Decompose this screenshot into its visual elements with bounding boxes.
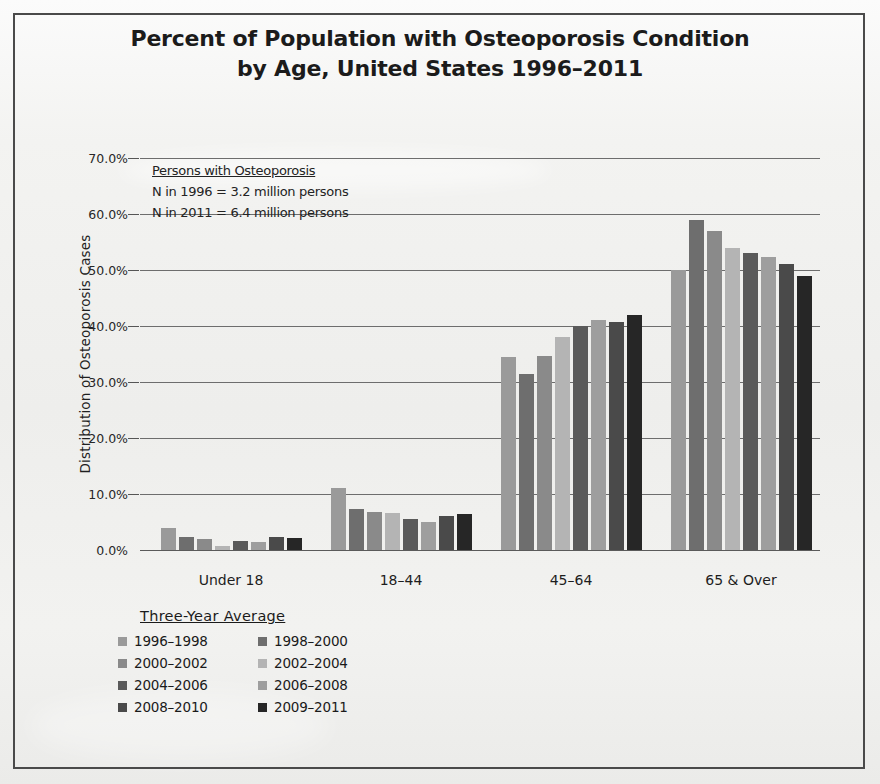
y-axis-tick-label: 60.0% (62, 207, 128, 222)
y-axis-tick-label: 20.0% (62, 431, 128, 446)
bar (233, 541, 248, 550)
bar-group (671, 158, 812, 550)
legend-item[interactable]: 2004–2006 (118, 677, 258, 693)
bar (161, 528, 176, 550)
bar (251, 542, 266, 550)
y-axis-tick-mark (128, 494, 139, 495)
bar (555, 337, 570, 550)
chart-page: Percent of Population with Osteoporosis … (0, 0, 880, 784)
legend-swatch (258, 681, 267, 690)
y-axis-tick-label: 40.0% (62, 319, 128, 334)
bar (349, 509, 364, 550)
legend-item[interactable]: 2009–2011 (258, 699, 408, 715)
legend-item[interactable]: 2008–2010 (118, 699, 258, 715)
axis-baseline (140, 550, 820, 551)
bar (671, 270, 686, 550)
bar (421, 522, 436, 550)
title-line-2: by Age, United States 1996–2011 (50, 54, 830, 84)
x-axis-category-label: 45–64 (491, 572, 651, 588)
legend-item[interactable]: 2000–2002 (118, 655, 258, 671)
bar (761, 257, 776, 550)
bar (707, 231, 722, 550)
legend-swatch (118, 703, 127, 712)
legend-swatch (118, 681, 127, 690)
bar (519, 374, 534, 550)
annotation-heading: Persons with Osteoporosis (152, 160, 348, 181)
annotation-line-2: N in 2011 = 6.4 million persons (152, 202, 348, 223)
bar (179, 537, 194, 550)
legend-label: 1996–1998 (134, 633, 208, 649)
bar (725, 248, 740, 550)
bar-group (331, 158, 472, 550)
bar (779, 264, 794, 550)
legend-label: 2006–2008 (274, 677, 348, 693)
x-axis-category-label: 18–44 (321, 572, 481, 588)
bar (215, 546, 230, 550)
legend-label: 2004–2006 (134, 677, 208, 693)
bar-group (501, 158, 642, 550)
annotation-box: Persons with Osteoporosis N in 1996 = 3.… (152, 160, 348, 223)
legend-item[interactable]: 2002–2004 (258, 655, 408, 671)
legend-label: 2000–2002 (134, 655, 208, 671)
legend-swatch (258, 659, 267, 668)
bar (457, 514, 472, 550)
y-axis-tick-label: 10.0% (62, 487, 128, 502)
page-title: Percent of Population with Osteoporosis … (50, 24, 830, 84)
bar (627, 315, 642, 550)
legend-label: 2002–2004 (274, 655, 348, 671)
legend-label: 1998–2000 (274, 633, 348, 649)
bar (385, 513, 400, 550)
y-axis-tick-mark (128, 158, 139, 159)
y-axis-tick-mark (128, 270, 139, 271)
bar (689, 220, 704, 550)
bar (367, 512, 382, 550)
bar (439, 516, 454, 550)
legend-title: Three-Year Average (140, 608, 418, 624)
legend-label: 2009–2011 (274, 699, 348, 715)
bar (797, 276, 812, 550)
legend-swatch (118, 637, 127, 646)
bar (269, 537, 284, 550)
bar (743, 253, 758, 550)
bar (609, 322, 624, 550)
title-line-1: Percent of Population with Osteoporosis … (130, 26, 749, 51)
y-axis-tick-mark (128, 438, 139, 439)
y-axis-tick-mark (128, 214, 139, 215)
legend-item[interactable]: 1996–1998 (118, 633, 258, 649)
y-axis-tick-label: 30.0% (62, 375, 128, 390)
annotation-line-1: N in 1996 = 3.2 million persons (152, 181, 348, 202)
legend-items: 1996–19981998–20002000–20022002–20042004… (118, 633, 418, 715)
bar (287, 538, 302, 550)
y-axis-tick-label: 70.0% (62, 151, 128, 166)
legend-swatch (258, 703, 267, 712)
legend: Three-Year Average 1996–19981998–2000200… (118, 608, 418, 715)
legend-swatch (118, 659, 127, 668)
bar (591, 320, 606, 550)
x-axis-category-label: Under 18 (151, 572, 311, 588)
y-axis-tick-mark (128, 326, 139, 327)
bar (331, 488, 346, 550)
bar (197, 539, 212, 550)
legend-item[interactable]: 2006–2008 (258, 677, 408, 693)
bar (573, 326, 588, 550)
x-axis-category-label: 65 & Over (661, 572, 821, 588)
y-axis-tick-label: 50.0% (62, 263, 128, 278)
bar (537, 356, 552, 550)
y-axis-tick-mark (128, 382, 139, 383)
bar (501, 357, 516, 550)
legend-item[interactable]: 1998–2000 (258, 633, 408, 649)
legend-swatch (258, 637, 267, 646)
legend-label: 2008–2010 (134, 699, 208, 715)
bar (403, 519, 418, 550)
y-axis-tick-label: 0.0% (62, 543, 128, 558)
